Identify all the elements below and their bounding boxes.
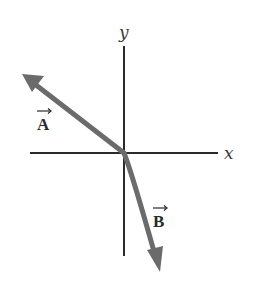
vector-a-label-group: A: [37, 109, 51, 135]
y-axis-label: y: [118, 22, 129, 42]
vector-a: [22, 74, 124, 153]
vector-b-shaft: [124, 153, 155, 255]
vector-a-label: A: [37, 115, 50, 134]
x-axis-label: x: [224, 143, 234, 163]
vector-b-label: B: [153, 212, 164, 231]
vector-b-arrowhead-icon: [147, 246, 163, 272]
vector-diagram: y x A B: [0, 0, 267, 290]
vector-b-label-group: B: [153, 206, 167, 232]
